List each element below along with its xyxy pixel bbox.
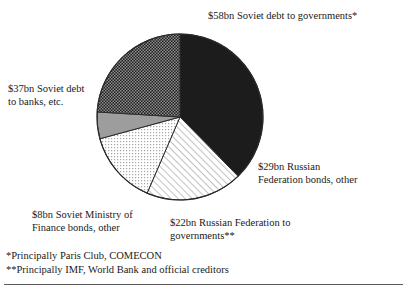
slice-label-soviet-debt-governments: $58bn Soviet debt to governments*: [208, 9, 404, 22]
pie-chart-figure: $58bn Soviet debt to governments* $37bn …: [0, 0, 407, 293]
slice-label-soviet-debt-banks: $37bn Soviet debt to banks, etc.: [8, 82, 118, 108]
footnote-double-asterisk: **Principally IMF, World Bank and offici…: [6, 263, 401, 277]
slice-label-soviet-ministry-finance-bonds: $8bn Soviet Ministry of Finance bonds, o…: [32, 208, 162, 234]
footnote-single-asterisk: *Principally Paris Club, COMECON: [6, 249, 401, 263]
footnotes: *Principally Paris Club, COMECON **Princ…: [6, 249, 401, 277]
slice-label-russian-federation-bonds: $29bn Russian Federation bonds, other: [258, 160, 404, 186]
slice-label-russian-federation-governments: $22bn Russian Federation to governments*…: [170, 216, 330, 242]
bottom-divider: [4, 284, 403, 285]
